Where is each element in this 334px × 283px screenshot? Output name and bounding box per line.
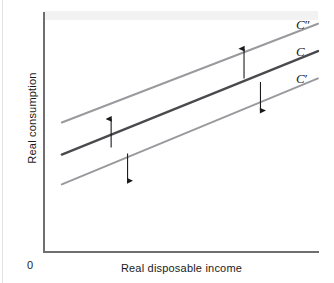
- curve-label-c-prime: C′: [296, 71, 308, 87]
- curve-label-c-text: C: [296, 44, 305, 59]
- curve-label-c: C: [296, 44, 305, 60]
- curve-label-c-prime-text: C: [296, 71, 305, 86]
- curve-group: [62, 24, 318, 185]
- y-axis-title: Real consumption: [26, 38, 38, 198]
- figure-root: C″ C C′ Real consumption Real disposable…: [0, 0, 334, 283]
- curve-label-c-double-prime-mark: ″: [305, 17, 310, 32]
- curve-c: [62, 51, 318, 155]
- x-axis-title: Real disposable income: [44, 262, 319, 274]
- curve-c-double-prime: [62, 24, 318, 123]
- plot-canvas: [0, 0, 334, 283]
- origin-label: 0: [27, 259, 33, 271]
- curve-label-c-double-prime-text: C: [296, 17, 305, 32]
- curve-label-c-double-prime: C″: [296, 17, 310, 33]
- curve-label-c-prime-mark: ′: [305, 71, 308, 86]
- annotation-arrow-group: [111, 49, 260, 181]
- curve-c-prime: [62, 78, 318, 184]
